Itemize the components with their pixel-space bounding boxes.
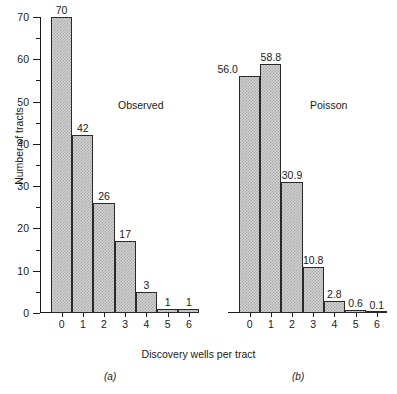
panel-a-annotation: Observed xyxy=(118,99,164,111)
figure-histogram-pair: 010203040506070 Number of tracts 7042261… xyxy=(0,0,397,394)
y-tick-label: 70 xyxy=(2,12,29,22)
y-tick-major xyxy=(33,313,40,314)
x-tick-label: 6 xyxy=(177,318,201,330)
x-tick xyxy=(377,313,378,317)
y-tick-major xyxy=(33,59,40,60)
x-tick xyxy=(292,313,293,317)
y-tick-major xyxy=(33,102,40,103)
y-tick-major xyxy=(33,17,40,18)
y-tick-major xyxy=(33,271,40,272)
x-tick xyxy=(62,313,63,317)
y-axis-title: Number of tracts xyxy=(13,86,25,206)
bar-value-label: 58.8 xyxy=(256,52,286,63)
x-tick xyxy=(334,313,335,317)
x-tick xyxy=(104,313,105,317)
bar-value-label: 17 xyxy=(116,229,134,240)
x-tick xyxy=(271,313,272,317)
bar-value-label: 70 xyxy=(53,5,71,16)
bar-value-label: 56.0 xyxy=(213,64,243,75)
x-tick xyxy=(250,313,251,317)
y-tick-major xyxy=(33,186,40,187)
y-tick-label: 10 xyxy=(2,266,29,276)
x-tick xyxy=(125,313,126,317)
x-tick xyxy=(356,313,357,317)
panel-poisson: 56.058.830.910.82.80.60.1 xyxy=(228,17,376,313)
bar-value-label: 42 xyxy=(74,123,92,134)
x-axis-ticks-a: 0123456 xyxy=(40,313,188,333)
bar-value-label: 1 xyxy=(159,297,177,308)
x-tick xyxy=(313,313,314,317)
bar xyxy=(281,182,302,313)
bar xyxy=(239,76,260,313)
bar-value-label: 1 xyxy=(180,297,198,308)
x-axis-title: Discovery wells per tract xyxy=(0,348,397,360)
x-tick xyxy=(168,313,169,317)
bar-value-label: 30.9 xyxy=(277,170,307,181)
panel-b-caption: (b) xyxy=(292,371,304,382)
bar xyxy=(115,241,136,313)
bar xyxy=(93,203,114,313)
bar-value-label: 10.8 xyxy=(298,255,328,266)
y-tick-major xyxy=(33,144,40,145)
bar xyxy=(260,64,281,313)
panel-observed: 70422617311 xyxy=(40,17,188,313)
bar xyxy=(136,292,157,313)
x-tick-label: 6 xyxy=(365,318,389,330)
bar-value-label: 0.1 xyxy=(362,300,392,311)
bar xyxy=(51,17,72,313)
y-tick-label: 20 xyxy=(2,223,29,233)
x-tick xyxy=(83,313,84,317)
x-axis-ticks-b: 0123456 xyxy=(228,313,376,333)
bar-value-label: 26 xyxy=(95,191,113,202)
x-tick xyxy=(189,313,190,317)
panel-b-annotation: Poisson xyxy=(310,99,347,111)
y-tick-label: 60 xyxy=(2,54,29,64)
panel-a-caption: (a) xyxy=(104,371,116,382)
y-tick-label: 0 xyxy=(2,308,29,318)
x-tick xyxy=(146,313,147,317)
y-tick-major xyxy=(33,228,40,229)
bar xyxy=(72,135,93,313)
bar-value-label: 3 xyxy=(137,280,155,291)
